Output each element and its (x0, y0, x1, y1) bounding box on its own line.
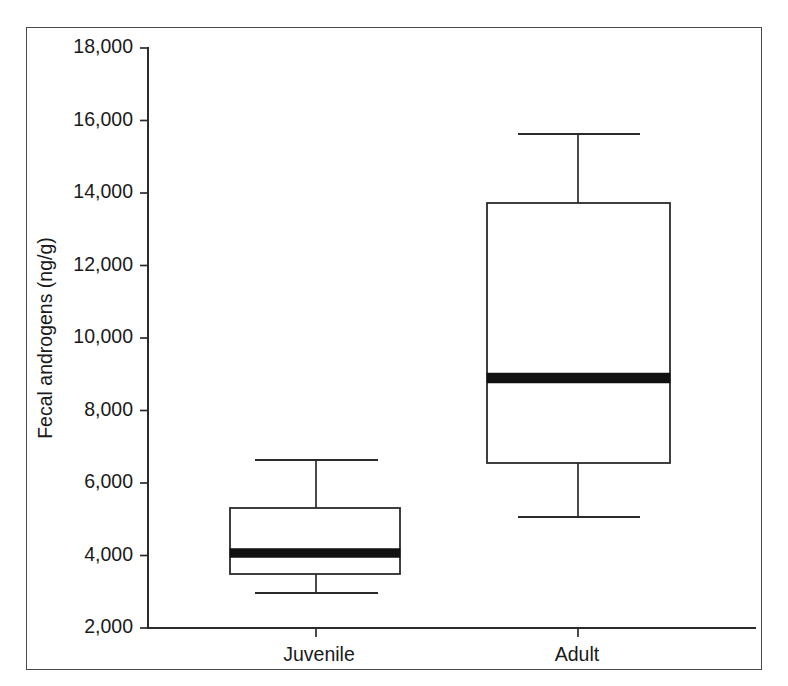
y-tick-label-16000: 16,000 (73, 108, 133, 130)
y-tick-label-8000: 8,000 (84, 398, 133, 420)
adult-median-band (487, 373, 670, 383)
y-axis-title: Fecal androgens (ng/g) (34, 237, 56, 439)
figure-canvas: 18,000 16,000 14,000 12,000 10,000 8,000… (0, 0, 788, 686)
y-tick-label-group: 18,000 16,000 14,000 12,000 10,000 8,000… (73, 35, 133, 637)
juvenile-median-band (230, 549, 400, 558)
juvenile-box-rect (230, 508, 400, 574)
box-adult (487, 134, 670, 517)
y-tick-group (140, 48, 148, 628)
x-tick-label-adult: Adult (555, 643, 600, 665)
box-plot: 18,000 16,000 14,000 12,000 10,000 8,000… (0, 0, 788, 686)
y-tick-label-4000: 4,000 (84, 543, 133, 565)
x-tick-group (316, 628, 578, 637)
y-tick-label-12000: 12,000 (73, 253, 133, 275)
adult-box-rect (487, 203, 670, 463)
box-juvenile (230, 460, 400, 593)
y-tick-label-14000: 14,000 (73, 180, 133, 202)
y-tick-label-10000: 10,000 (73, 325, 133, 347)
y-tick-label-6000: 6,000 (84, 470, 133, 492)
x-tick-label-juvenile: Juvenile (283, 643, 355, 665)
y-tick-label-18000: 18,000 (73, 35, 133, 57)
y-tick-label-2000: 2,000 (84, 615, 133, 637)
